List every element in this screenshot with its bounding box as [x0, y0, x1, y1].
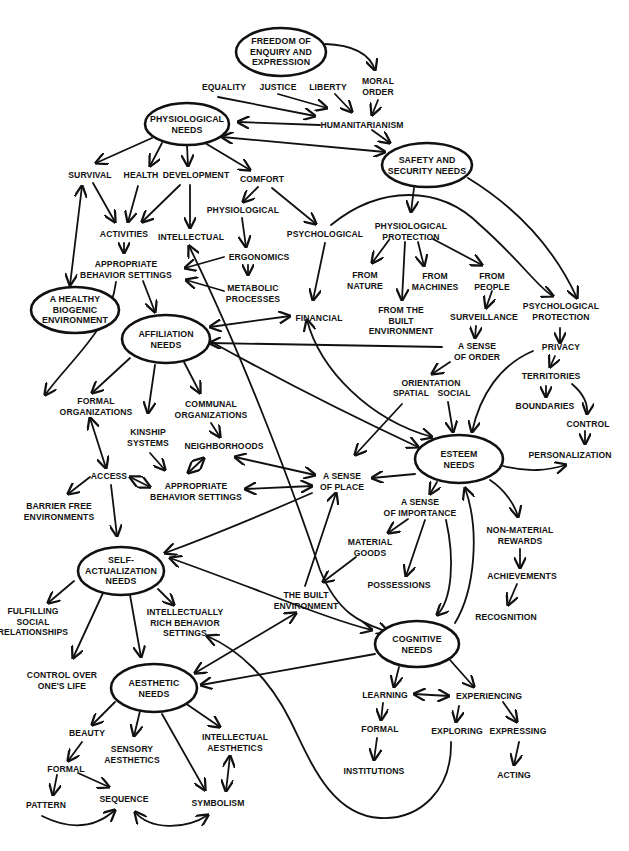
label-possessions: POSSESSIONS [367, 580, 430, 591]
label-surveillance: SURVEILLANCE [450, 312, 518, 323]
label-comfort: COMFORT [240, 174, 284, 185]
label-exploring: EXPLORING [431, 726, 483, 737]
label-orientation: ORIENTATION [401, 378, 460, 389]
label-comfort-psychological: PSYCHOLOGICAL [287, 229, 363, 240]
label-intellectual: INTELLECTUAL [158, 232, 224, 243]
label-the-built-environment: THE BUILT ENVIRONMENT [274, 590, 339, 611]
label-appropriate-behavior-settings-1: APPROPRIATE BEHAVIOR SETTINGS [80, 259, 172, 280]
label-control: CONTROL [566, 419, 609, 430]
label-from-built-environment: FROM THE BUILT ENVIRONMENT [369, 305, 434, 337]
label-experiencing: EXPERIENCING [456, 691, 522, 702]
diagram-edges [0, 0, 629, 851]
label-material-goods: MATERIAL GOODS [348, 537, 393, 558]
label-non-material-rewards: NON-MATERIAL REWARDS [487, 525, 554, 546]
label-survival: SURVIVAL [68, 170, 111, 181]
label-social: SOCIAL [437, 388, 470, 399]
need-label: SAFETY AND SECURITY NEEDS [388, 155, 466, 176]
label-kinship-systems: KINSHIP SYSTEMS [127, 427, 169, 448]
label-psychological-protection: PSYCHOLOGICAL PROTECTION [523, 301, 599, 322]
label-health: HEALTH [124, 170, 159, 181]
label-appropriate-behavior-settings-2: APPROPRIATE BEHAVIOR SETTINGS [150, 481, 242, 502]
label-financial: FINANCIAL [295, 313, 342, 324]
need-label: SELF- ACTUALIZATION NEEDS [85, 555, 157, 587]
label-sense-of-place: A SENSE OF PLACE [320, 471, 364, 492]
label-formal-aesthetic: FORMAL [47, 764, 84, 775]
label-acting: ACTING [497, 770, 531, 781]
label-from-people: FROM PEOPLE [474, 271, 509, 292]
label-activities: ACTIVITIES [100, 229, 148, 240]
label-territories: TERRITORIES [522, 371, 581, 382]
label-pattern: PATTERN [26, 800, 66, 811]
need-ellipses [31, 28, 503, 712]
label-control-over-ones-life: CONTROL OVER ONE'S LIFE [27, 670, 97, 691]
label-boundaries: BOUNDARIES [516, 401, 575, 412]
label-moral-order: MORAL ORDER [362, 76, 394, 97]
label-neighborhoods: NEIGHBORHOODS [184, 441, 263, 452]
label-sense-of-importance: A SENSE OF IMPORTANCE [384, 497, 457, 518]
label-intellectual-aesthetics: INTELLECTUAL AESTHETICS [202, 732, 268, 753]
label-communal-organizations: COMMUNAL ORGANIZATIONS [175, 399, 248, 420]
label-from-machines: FROM MACHINES [412, 271, 459, 292]
label-achievements: ACHIEVEMENTS [487, 571, 556, 582]
need-label: FREEDOM OF ENQUIRY AND EXPRESSION [250, 36, 312, 68]
label-humanitarianism: HUMANITARIANISM [321, 120, 404, 131]
label-sense-of-order: A SENSE OF ORDER [454, 341, 500, 362]
label-ergonomics: ERGONOMICS [229, 252, 290, 263]
label-learning: LEARNING [362, 690, 408, 701]
need-label: COGNITIVE NEEDS [392, 634, 441, 655]
label-sensory-aesthetics: SENSORY AESTHETICS [104, 744, 159, 765]
label-access: ACCESS [91, 471, 127, 482]
label-expressing: EXPRESSING [490, 726, 547, 737]
need-label: AFFILIATION NEEDS [138, 329, 193, 350]
edges [42, 44, 587, 826]
label-symbolism: SYMBOLISM [192, 798, 245, 809]
label-recognition: RECOGNITION [475, 612, 537, 623]
label-spatial: SPATIAL [393, 388, 429, 399]
label-formal-learning: FORMAL [361, 724, 398, 735]
need-label: A HEALTHY BIOGENIC ENVIRONMENT [42, 294, 108, 326]
label-barrier-free-environments: BARRIER FREE ENVIRONMENTS [24, 501, 94, 522]
need-label: AESTHETIC NEEDS [129, 678, 180, 699]
label-equality: EQUALITY [202, 82, 246, 93]
label-privacy: PRIVACY [542, 342, 580, 353]
label-comfort-physiological: PHYSIOLOGICAL [207, 205, 279, 216]
need-label: ESTEEM NEEDS [441, 449, 478, 470]
label-beauty: BEAUTY [69, 728, 105, 739]
need-label: PHYSIOLOGICAL NEEDS [150, 114, 224, 135]
label-development: DEVELOPMENT [163, 170, 230, 181]
label-justice: JUSTICE [260, 82, 297, 93]
label-intellectually-rich-behavior-settings: INTELLECTUALLY RICH BEHAVIOR SETTINGS [147, 607, 224, 639]
label-metabolic-processes: METABOLIC PROCESSES [226, 283, 280, 304]
label-from-nature: FROM NATURE [347, 270, 383, 291]
needs-concept-diagram: FREEDOM OF ENQUIRY AND EXPRESSION PHYSIO… [0, 0, 629, 851]
label-institutions: INSTITUTIONS [344, 766, 405, 777]
label-physiological-protection: PHYSIOLOGICAL PROTECTION [375, 221, 447, 242]
label-formal-organizations: FORMAL ORGANIZATIONS [60, 396, 133, 417]
label-personalization: PERSONALIZATION [529, 450, 612, 461]
label-liberty: LIBERTY [309, 82, 346, 93]
label-fulfilling-social-relationships: FULFILLING SOCIAL RELATIONSHIPS [0, 606, 68, 638]
label-sequence: SEQUENCE [99, 794, 148, 805]
